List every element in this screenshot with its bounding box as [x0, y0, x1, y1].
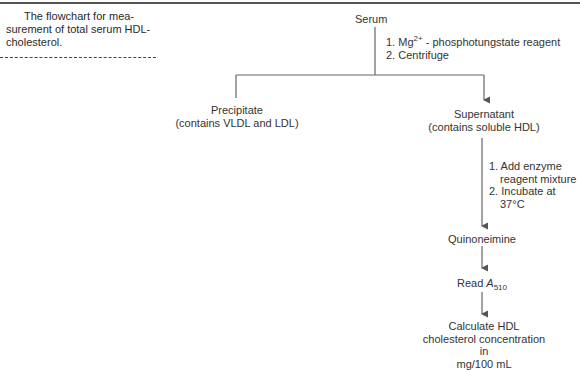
step-1-instructions: 1. Mg2+ - phosphotungstate reagent 2. Ce…	[386, 36, 560, 61]
precipitate-detail: (contains VLDL and LDL)	[175, 117, 299, 130]
read-variable: A	[486, 277, 493, 289]
calculate-line-2: cholesterol concentration	[422, 333, 546, 346]
read-wavelength: 510	[494, 283, 507, 292]
step-2-instructions: 1. Add enzyme reagent mixture 2. Incubat…	[489, 160, 576, 210]
node-precipitate: Precipitate (contains VLDL and LDL)	[175, 104, 299, 129]
step-1-item-1-prefix: 1. Mg	[386, 36, 414, 48]
step-2-item-2-line-2: 37°C	[489, 198, 576, 211]
calculate-line-4: mg/100 mL	[422, 358, 546, 370]
supernatant-detail: (contains soluble HDL)	[422, 121, 546, 134]
calculate-line-1: Calculate HDL	[422, 320, 546, 333]
step-1-item-2: 2. Centrifuge	[386, 49, 560, 62]
node-quinoneimine: Quinoneimine	[432, 233, 532, 246]
step-2-item-1-line-1: 1. Add enzyme	[489, 160, 576, 173]
node-supernatant: Supernatant (contains soluble HDL)	[422, 108, 546, 133]
node-calculate: Calculate HDL cholesterol concentration …	[422, 320, 546, 370]
step-2-item-1-line-2: reagent mixture	[489, 173, 576, 186]
precipitate-title: Precipitate	[175, 104, 299, 117]
calculate-line-3: in	[422, 345, 546, 358]
step-2-item-2-line-1: 2. Incubate at	[489, 185, 576, 198]
step-1-item-1-superscript: 2+	[414, 34, 423, 43]
node-serum: Serum	[355, 13, 387, 26]
node-read-absorbance: Read A510	[442, 277, 522, 290]
step-1-item-1-suffix: - phosphotungstate reagent	[423, 36, 561, 48]
read-prefix: Read	[457, 277, 486, 289]
supernatant-title: Supernatant	[422, 108, 546, 121]
